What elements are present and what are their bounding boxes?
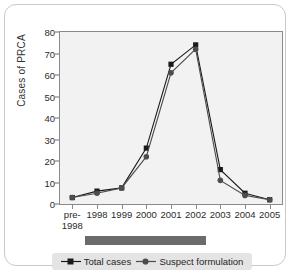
x-tick-label: 2003: [210, 209, 231, 220]
y-tick-label: 20: [31, 156, 55, 167]
x-tick-mark: [171, 205, 172, 209]
data-point: [168, 70, 174, 76]
data-point: [267, 197, 273, 203]
y-tick-label: 70: [31, 48, 55, 59]
figure-frame: Cases of PRCA 01020304050607080 pre-1998…: [4, 4, 286, 266]
x-tick-label: 2005: [259, 209, 280, 220]
chart-canvas: [60, 32, 282, 204]
legend-item-total-cases[interactable]: Total cases: [61, 256, 132, 267]
y-tick-label: 80: [31, 27, 55, 38]
y-tick-label: 40: [31, 113, 55, 124]
data-point: [193, 46, 199, 52]
x-tick-mark: [122, 205, 123, 209]
x-axis-ticks: pre-199819981999200020012002200320042005: [59, 205, 283, 235]
legend-label-suspect-formulation: Suspect formulation: [159, 256, 243, 267]
x-tick-mark: [270, 205, 271, 209]
y-axis-label: Cases of PRCA: [16, 11, 27, 131]
period-annotation-bar: [85, 236, 206, 245]
x-tick-mark: [196, 205, 197, 209]
x-tick-mark: [72, 205, 73, 209]
legend-item-suspect-formulation[interactable]: Suspect formulation: [136, 256, 243, 267]
x-tick-label: pre-1998: [62, 209, 83, 231]
y-tick-label: 10: [31, 177, 55, 188]
legend-marker-circle-icon: [136, 257, 156, 266]
data-point: [242, 193, 248, 199]
legend-label-total-cases: Total cases: [84, 256, 132, 267]
y-tick-label: 60: [31, 70, 55, 81]
data-point: [218, 178, 224, 184]
x-tick-label: 2004: [234, 209, 255, 220]
y-tick-label: 30: [31, 134, 55, 145]
y-tick-label: 50: [31, 91, 55, 102]
data-point: [94, 190, 100, 196]
x-tick-mark: [245, 205, 246, 209]
series-line-0: [72, 45, 269, 200]
x-tick-mark: [146, 205, 147, 209]
y-tick-label: 0: [31, 199, 55, 210]
x-tick-mark: [220, 205, 221, 209]
data-point: [119, 185, 125, 191]
data-point: [168, 62, 173, 67]
x-tick-label: 2001: [160, 209, 181, 220]
plot-area: [59, 31, 283, 205]
chart-legend: Total cases Suspect formulation: [52, 253, 252, 270]
legend-marker-square-icon: [61, 257, 81, 266]
x-tick-label: 2000: [136, 209, 157, 220]
x-tick-mark: [97, 205, 98, 209]
data-point: [70, 195, 76, 201]
x-tick-label: 2002: [185, 209, 206, 220]
y-axis-ticks: 01020304050607080: [29, 31, 55, 205]
data-point: [144, 154, 150, 160]
x-tick-label: 1999: [111, 209, 132, 220]
x-tick-label: 1998: [86, 209, 107, 220]
